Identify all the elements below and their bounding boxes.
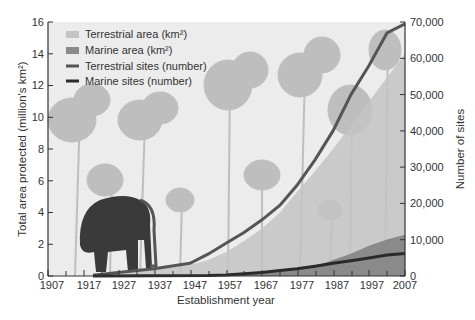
svg-text:4: 4 bbox=[38, 206, 44, 218]
svg-text:8: 8 bbox=[38, 143, 44, 155]
svg-text:1917: 1917 bbox=[77, 279, 101, 291]
svg-text:16: 16 bbox=[32, 16, 44, 28]
svg-text:10,000: 10,000 bbox=[410, 234, 444, 246]
svg-text:70,000: 70,000 bbox=[410, 16, 444, 28]
svg-text:60,000: 60,000 bbox=[410, 52, 444, 64]
legend-swatch-marine-area bbox=[66, 47, 79, 54]
svg-text:0: 0 bbox=[410, 270, 416, 282]
svg-text:1967: 1967 bbox=[254, 279, 278, 291]
legend-label-terrestrial-area: Terrestrial area (km²) bbox=[85, 28, 187, 40]
legend-swatch-terrestrial-area bbox=[66, 31, 79, 38]
y-axis-left-title: Total area protected (million's km²) bbox=[16, 61, 28, 237]
legend-label-terrestrial-sites: Terrestrial sites (number) bbox=[85, 60, 207, 72]
svg-text:1957: 1957 bbox=[218, 279, 242, 291]
svg-text:1947: 1947 bbox=[183, 279, 207, 291]
y-axis-right-title: Number of sites bbox=[454, 108, 466, 189]
svg-text:1937: 1937 bbox=[148, 279, 172, 291]
svg-text:2: 2 bbox=[38, 238, 44, 250]
svg-text:1987: 1987 bbox=[325, 279, 349, 291]
svg-text:30,000: 30,000 bbox=[410, 161, 444, 173]
svg-text:1977: 1977 bbox=[290, 279, 314, 291]
svg-text:40,000: 40,000 bbox=[410, 125, 444, 137]
svg-text:12: 12 bbox=[32, 79, 44, 91]
svg-text:20,000: 20,000 bbox=[410, 197, 444, 209]
protected-areas-chart: 1907 1917 1927 1937 1947 1957 1967 1977 … bbox=[0, 0, 475, 320]
svg-text:10: 10 bbox=[32, 111, 44, 123]
x-axis-title: Establishment year bbox=[177, 294, 275, 306]
y-right-tick-labels: 0 10,000 20,000 30,000 40,000 50,000 60,… bbox=[410, 16, 444, 282]
legend-label-marine-area: Marine area (km²) bbox=[85, 44, 172, 56]
svg-text:50,000: 50,000 bbox=[410, 89, 444, 101]
svg-text:1997: 1997 bbox=[360, 279, 384, 291]
svg-text:1927: 1927 bbox=[112, 279, 136, 291]
svg-text:6: 6 bbox=[38, 175, 44, 187]
svg-text:14: 14 bbox=[32, 48, 44, 60]
legend-label-marine-sites: Marine sites (number) bbox=[85, 75, 192, 87]
x-tick-labels: 1907 1917 1927 1937 1947 1957 1967 1977 … bbox=[40, 279, 417, 291]
y-left-tick-labels: 0 2 4 6 8 10 12 14 16 bbox=[32, 16, 44, 282]
svg-text:0: 0 bbox=[38, 270, 44, 282]
